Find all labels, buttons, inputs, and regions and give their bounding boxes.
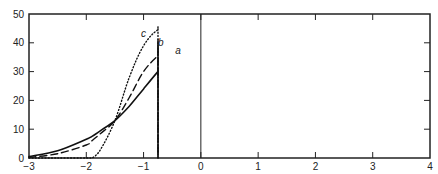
x-tick-label: −1 — [138, 161, 150, 172]
y-tick-label: 30 — [13, 66, 25, 77]
distribution-chart: abc −3−2−101234 01020304050 — [0, 0, 438, 174]
x-tick-label: −3 — [23, 161, 35, 172]
curve-labels: abc — [141, 28, 181, 56]
y-tick-label: 50 — [13, 9, 25, 20]
plot-border — [29, 14, 430, 158]
x-tick-label: 1 — [255, 161, 261, 172]
plot-frame — [29, 14, 430, 158]
x-tick-label: 3 — [370, 161, 376, 172]
x-tick-label: 4 — [427, 161, 433, 172]
x-tick-label: 2 — [313, 161, 319, 172]
y-axis-tick-labels: 01020304050 — [13, 9, 25, 164]
y-tick-label: 20 — [13, 95, 25, 106]
curves — [29, 27, 158, 158]
y-tick-label: 0 — [18, 153, 24, 164]
x-tick-label: −2 — [81, 161, 93, 172]
y-tick-label: 10 — [13, 124, 25, 135]
curve-a — [29, 43, 158, 158]
curve-b — [29, 40, 158, 158]
axis-ticks — [29, 14, 430, 158]
y-tick-label: 40 — [13, 37, 25, 48]
curve-c — [29, 27, 158, 158]
curve-label-b: b — [158, 37, 164, 48]
x-tick-label: 0 — [198, 161, 204, 172]
x-axis-tick-labels: −3−2−101234 — [23, 161, 433, 172]
curve-label-c: c — [141, 28, 146, 39]
curve-label-a: a — [175, 45, 181, 56]
